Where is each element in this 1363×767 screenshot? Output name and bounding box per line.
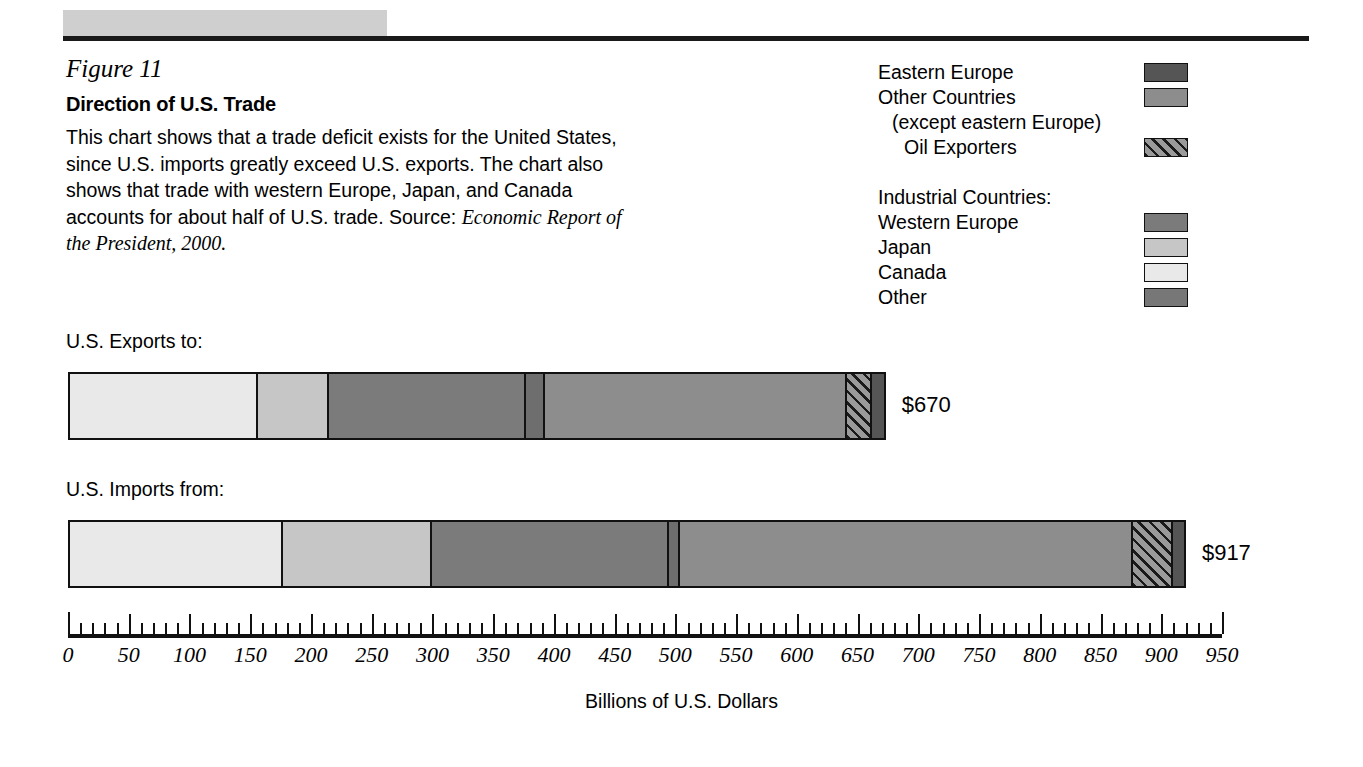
bar-segment	[680, 522, 1133, 586]
axis-tick-minor	[651, 623, 653, 634]
axis-tick-minor	[566, 623, 568, 634]
legend-row: (except eastern Europe)	[878, 110, 1218, 135]
axis-tick-minor	[445, 623, 447, 634]
axis-tick-minor	[773, 623, 775, 634]
axis-tick-minor	[724, 623, 726, 634]
axis-tick-minor	[1003, 623, 1005, 634]
axis-tick-label: 750	[963, 642, 996, 668]
legend-swatch-hatch	[1144, 138, 1188, 157]
axis-tick-label: 0	[63, 642, 74, 668]
axis-tick-major	[311, 614, 313, 634]
axis-tick-minor	[481, 623, 483, 634]
axis-tick-minor	[1028, 623, 1030, 634]
bar-segment	[70, 522, 283, 586]
axis-tick-major	[129, 614, 131, 634]
axis-tick-label: 50	[118, 642, 140, 668]
axis-tick-minor	[542, 623, 544, 634]
figure-panel: Figure 11 Direction of U.S. Trade This c…	[0, 0, 1363, 767]
axis-tick-major	[1222, 612, 1224, 634]
axis-tick-minor	[335, 623, 337, 634]
legend-swatch-solid	[1144, 88, 1188, 107]
axis-tick-minor	[153, 623, 155, 634]
axis-tick-minor	[420, 623, 422, 634]
legend-row: Other Countries	[878, 85, 1218, 110]
axis-tick-minor	[457, 623, 459, 634]
axis-tick-minor	[1186, 623, 1188, 634]
axis-tick-minor	[287, 623, 289, 634]
axis-tick-label: 450	[598, 642, 631, 668]
figure-number: Figure 11	[66, 55, 163, 83]
axis-tick-label: 600	[780, 642, 813, 668]
bar-exports	[68, 372, 886, 440]
legend-label: Other	[878, 285, 927, 310]
axis-tick-minor	[1088, 623, 1090, 634]
axis-tick-label: 100	[173, 642, 206, 668]
axis-tick-major	[858, 614, 860, 634]
axis-tick-label: 500	[659, 642, 692, 668]
legend-swatch-solid	[1144, 238, 1188, 257]
legend-label: Eastern Europe	[878, 60, 1014, 85]
axis-tick-minor	[663, 623, 665, 634]
axis-tick-minor	[469, 623, 471, 634]
axis-tick-label: 650	[841, 642, 874, 668]
axis-tick-minor	[833, 623, 835, 634]
x-axis	[68, 612, 1222, 638]
axis-tick-label: 550	[720, 642, 753, 668]
x-axis-title: Billions of U.S. Dollars	[0, 690, 1363, 713]
axis-tick-minor	[1210, 623, 1212, 634]
axis-tick-minor	[384, 623, 386, 634]
axis-tick-major	[189, 614, 191, 634]
axis-tick-minor	[943, 623, 945, 634]
bar-segment	[258, 374, 328, 438]
axis-tick-minor	[627, 623, 629, 634]
axis-tick-major	[554, 614, 556, 634]
axis-tick-minor	[177, 623, 179, 634]
x-axis-line	[68, 634, 1222, 638]
axis-tick-minor	[688, 623, 690, 634]
legend: Eastern EuropeOther Countries(except eas…	[878, 60, 1218, 310]
axis-tick-minor	[700, 623, 702, 634]
axis-tick-minor	[262, 623, 264, 634]
axis-tick-major	[1101, 614, 1103, 634]
axis-tick-minor	[967, 623, 969, 634]
legend-label: Western Europe	[878, 210, 1019, 235]
axis-tick-label: 900	[1145, 642, 1178, 668]
axis-tick-minor	[1137, 623, 1139, 634]
legend-swatch-solid	[1144, 263, 1188, 282]
axis-tick-minor	[991, 623, 993, 634]
axis-tick-minor	[530, 623, 532, 634]
figure-description: This chart shows that a trade deficit ex…	[66, 124, 626, 257]
axis-tick-minor	[1064, 623, 1066, 634]
bar-segment	[872, 374, 884, 438]
axis-tick-minor	[141, 623, 143, 634]
axis-tick-minor	[238, 623, 240, 634]
axis-tick-minor	[347, 623, 349, 634]
axis-tick-minor	[1125, 623, 1127, 634]
axis-tick-major	[1040, 614, 1042, 634]
axis-tick-major	[675, 614, 677, 634]
legend-row: Eastern Europe	[878, 60, 1218, 85]
header-gray-block	[63, 10, 387, 36]
axis-tick-label: 200	[294, 642, 327, 668]
legend-swatch-solid	[1144, 63, 1188, 82]
axis-tick-major	[250, 614, 252, 634]
axis-tick-minor	[930, 623, 932, 634]
axis-tick-label: 700	[902, 642, 935, 668]
axis-tick-minor	[517, 623, 519, 634]
legend-label: Other Countries	[878, 85, 1016, 110]
legend-row: Industrial Countries:	[878, 185, 1218, 210]
axis-tick-major	[615, 614, 617, 634]
axis-tick-label: 950	[1206, 642, 1239, 668]
axis-tick-major	[432, 614, 434, 634]
bar-segment	[432, 522, 669, 586]
axis-tick-minor	[323, 623, 325, 634]
axis-tick-minor	[906, 623, 908, 634]
bar-total-imports: $917	[1202, 540, 1251, 566]
axis-tick-minor	[712, 623, 714, 634]
legend-row: Japan	[878, 235, 1218, 260]
legend-row: Canada	[878, 260, 1218, 285]
axis-tick-minor	[1052, 623, 1054, 634]
axis-tick-label: 400	[537, 642, 570, 668]
axis-tick-minor	[1173, 623, 1175, 634]
axis-tick-major	[372, 614, 374, 634]
